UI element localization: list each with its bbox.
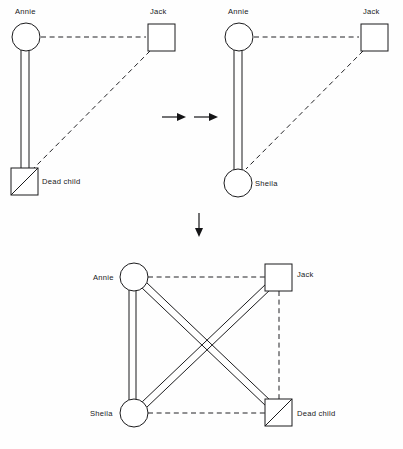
panel3-label-sheila: Sheila (90, 409, 113, 418)
figure-canvas: Annie Jack Dead child (0, 0, 403, 449)
panel1-link-jack-deadchild (33, 51, 150, 169)
panel2-node-sheila (224, 169, 252, 197)
panel1-label-jack: Jack (150, 7, 167, 16)
panel-3: Annie Jack Sheila Dead child (90, 263, 335, 427)
arrow-right-icon-head-2 (209, 113, 218, 121)
panel2-label-jack: Jack (363, 7, 380, 16)
panel3-link-sheila-jack-b (146, 288, 272, 408)
panel1-label-dead-child: Dead child (42, 177, 80, 186)
arrow-right-icon-head-1 (177, 113, 186, 121)
panel3-link-sheila-jack-a (141, 283, 267, 403)
panel2-node-jack (361, 24, 388, 51)
panel3-link-annie-deadchild-b (146, 282, 272, 402)
panel1-node-annie (12, 23, 40, 51)
panel2-label-sheila: Sheila (255, 179, 278, 188)
genogram-diagram: Annie Jack Dead child (0, 0, 403, 449)
panel1-node-jack (148, 24, 175, 51)
panel3-label-jack: Jack (297, 270, 314, 279)
panel-1: Annie Jack Dead child (11, 7, 175, 195)
panel2-link-jack-sheila (246, 51, 363, 169)
panel-2: Annie Jack Sheila (224, 7, 388, 197)
panel3-node-sheila (120, 399, 148, 427)
transition-arrow-3 (195, 213, 203, 237)
panel3-node-jack (265, 264, 292, 291)
panel1-label-annie: Annie (15, 7, 36, 16)
panel3-label-dead-child: Dead child (297, 409, 335, 418)
panel3-link-annie-deadchild-a (141, 287, 267, 407)
panel2-label-annie: Annie (228, 7, 249, 16)
transition-arrow-2 (194, 113, 218, 121)
panel2-node-annie (225, 23, 253, 51)
arrow-down-icon-head (195, 228, 203, 237)
panel3-node-annie (120, 263, 148, 291)
transition-arrow-1 (162, 113, 186, 121)
panel3-label-annie: Annie (93, 273, 114, 282)
